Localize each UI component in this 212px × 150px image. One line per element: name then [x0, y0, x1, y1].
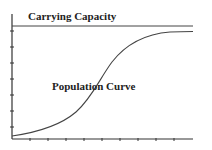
population-curve-label: Population Curve	[52, 81, 135, 92]
carrying-capacity-label: Carrying Capacity	[28, 11, 116, 22]
logistic-growth-chart	[0, 0, 212, 150]
